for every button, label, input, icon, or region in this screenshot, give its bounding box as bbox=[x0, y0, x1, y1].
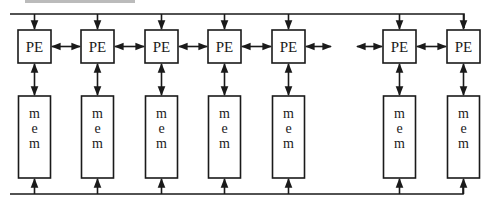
mem-label: e bbox=[396, 121, 402, 136]
mem-label: m bbox=[29, 106, 40, 121]
mem-label: m bbox=[458, 106, 469, 121]
pe-label: PE bbox=[216, 39, 234, 55]
pe-label: PE bbox=[26, 39, 44, 55]
pe-label: PE bbox=[391, 39, 409, 55]
column-2: PEmem bbox=[81, 14, 114, 194]
mem-label: m bbox=[458, 136, 469, 151]
top-bus bbox=[10, 14, 464, 28]
column-5: PEmem bbox=[272, 14, 305, 194]
mem-label: m bbox=[29, 136, 40, 151]
bottom-bus bbox=[10, 182, 463, 194]
mem-label: e bbox=[158, 121, 164, 136]
mem-label: e bbox=[460, 121, 466, 136]
mem-label: e bbox=[94, 121, 100, 136]
mem-label: m bbox=[92, 136, 103, 151]
column-4: PEmem bbox=[208, 14, 241, 194]
mem-label: e bbox=[285, 121, 291, 136]
mem-label: e bbox=[221, 121, 227, 136]
pe-array-diagram: PEmemPEmemPEmemPEmemPEmemPEmemPEmem bbox=[0, 0, 490, 205]
mem-label: m bbox=[394, 136, 405, 151]
mem-label: m bbox=[92, 106, 103, 121]
pe-label: PE bbox=[153, 39, 171, 55]
cut-off-caption bbox=[25, 0, 135, 3]
mem-label: m bbox=[394, 106, 405, 121]
pe-label: PE bbox=[89, 39, 107, 55]
column-6: PEmem bbox=[383, 14, 416, 194]
mem-label: m bbox=[156, 136, 167, 151]
mem-label: m bbox=[283, 106, 294, 121]
mem-label: e bbox=[31, 121, 37, 136]
column-7: PEmem bbox=[447, 14, 480, 194]
pe-label: PE bbox=[455, 39, 473, 55]
mem-label: m bbox=[283, 136, 294, 151]
pe-label: PE bbox=[280, 39, 298, 55]
column-1: PEmem bbox=[18, 14, 51, 194]
column-3: PEmem bbox=[145, 14, 178, 194]
mem-label: m bbox=[219, 106, 230, 121]
mem-label: m bbox=[219, 136, 230, 151]
mem-label: m bbox=[156, 106, 167, 121]
